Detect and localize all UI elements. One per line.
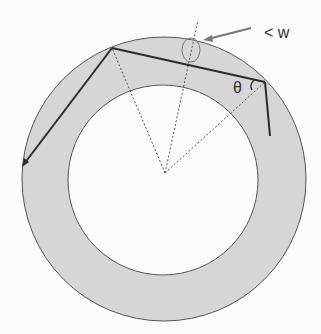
annulus-diagram: < w θ bbox=[0, 0, 321, 334]
inner-circle bbox=[68, 85, 258, 275]
width-marker-arrow bbox=[203, 28, 251, 42]
width-label: < w bbox=[264, 24, 290, 41]
angle-label: θ bbox=[233, 79, 242, 96]
